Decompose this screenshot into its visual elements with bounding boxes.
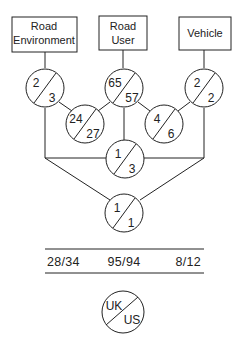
box-label: Environment [13, 34, 75, 46]
circle-top-value: 1 [115, 147, 122, 161]
circle-top-value: 1 [114, 201, 121, 215]
circle-bottom-value: 57 [125, 91, 139, 105]
circle-bottom-value: 1 [128, 216, 135, 230]
circle-bottom-value: 2 [208, 91, 215, 105]
circle-top-value: 4 [154, 112, 161, 126]
total-road-user: 95/94 [108, 255, 141, 269]
legend-top-label: UK [106, 299, 123, 313]
legend-bottom-label: US [124, 313, 141, 327]
connector-line [45, 158, 110, 200]
circle-top-value: 24 [69, 112, 83, 126]
contributing-factors-diagram: Road Environment Road User Vehicle 2 3 6… [0, 0, 244, 349]
total-vehicle: 8/12 [175, 255, 201, 269]
circle-bottom-value: 3 [129, 162, 136, 176]
total-road-environment: 28/34 [47, 255, 80, 269]
connector-line [59, 102, 72, 111]
box-label: Road [31, 20, 57, 32]
box-label: Vehicle [187, 27, 222, 39]
circle-top-value: 65 [108, 76, 122, 90]
circle-top-value: 2 [33, 76, 40, 90]
circle-bottom-value: 27 [86, 127, 100, 141]
box-label: User [111, 34, 135, 46]
connector-line [138, 102, 150, 111]
connector-line [98, 102, 110, 111]
connector-line [140, 158, 204, 200]
connector-line [178, 102, 190, 111]
circle-bottom-value: 6 [168, 127, 175, 141]
box-label: Road [110, 20, 136, 32]
circle-top-value: 2 [194, 76, 201, 90]
circle-bottom-value: 3 [49, 91, 56, 105]
